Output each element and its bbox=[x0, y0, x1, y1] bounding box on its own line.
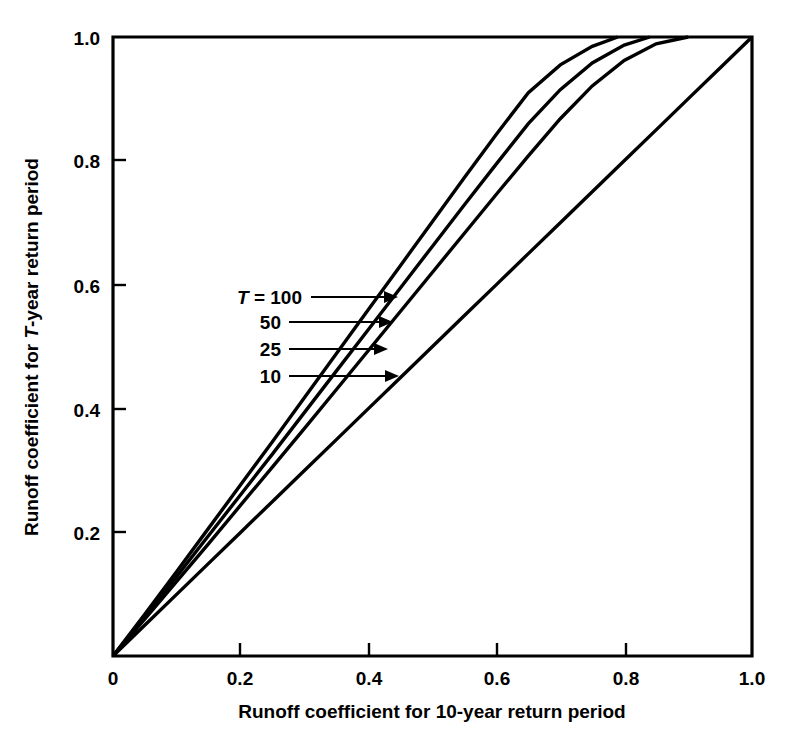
y-tick-label-1.0: 1.0 bbox=[74, 28, 100, 49]
y-axis-ticks bbox=[113, 160, 126, 532]
series-label-t50: 50 bbox=[260, 312, 281, 333]
chart-figure: 1.0 0.8 0.6 0.4 0.2 0 0.2 0.4 0.6 0.8 1.… bbox=[0, 0, 801, 741]
series-label-t100: T = 100 bbox=[237, 287, 302, 308]
arrow-head-t25 bbox=[374, 343, 388, 355]
y-tick-label-0.4: 0.4 bbox=[74, 400, 101, 421]
x-axis-ticks bbox=[240, 643, 626, 656]
x-tick-label-0.2: 0.2 bbox=[227, 668, 253, 689]
y-axis-tick-labels: 1.0 0.8 0.6 0.4 0.2 bbox=[74, 28, 101, 544]
arrow-head-t50 bbox=[379, 316, 393, 328]
curve-t25 bbox=[113, 37, 688, 656]
runoff-coefficient-chart: 1.0 0.8 0.6 0.4 0.2 0 0.2 0.4 0.6 0.8 1.… bbox=[0, 0, 801, 741]
x-axis-tick-labels: 0 0.2 0.4 0.6 0.8 1.0 bbox=[108, 668, 766, 689]
curve-t10 bbox=[113, 37, 752, 656]
series-labels: T = 100 50 25 10 bbox=[237, 287, 302, 387]
y-tick-label-0.6: 0.6 bbox=[74, 276, 100, 297]
y-tick-label-0.8: 0.8 bbox=[74, 151, 100, 172]
y-tick-label-0.2: 0.2 bbox=[74, 523, 100, 544]
series-label-t10: 10 bbox=[260, 366, 281, 387]
leader-t100 bbox=[311, 291, 398, 303]
x-tick-label-0.4: 0.4 bbox=[356, 668, 383, 689]
x-tick-label-0.6: 0.6 bbox=[484, 668, 510, 689]
x-tick-label-0: 0 bbox=[108, 668, 119, 689]
series-label-t100-rest: = 100 bbox=[249, 287, 302, 308]
y-axis-title: Runoff coefficient for T-year return per… bbox=[21, 158, 42, 536]
y-axis-title-before: Runoff coefficient for bbox=[21, 339, 42, 536]
series-label-t25: 25 bbox=[260, 339, 282, 360]
x-axis-title: Runoff coefficient for 10-year return pe… bbox=[238, 701, 625, 722]
x-tick-label-1.0: 1.0 bbox=[739, 668, 765, 689]
annotation-leaders bbox=[289, 291, 399, 382]
data-curves bbox=[113, 37, 752, 656]
y-axis-title-after: -year return period bbox=[21, 158, 42, 327]
x-tick-label-0.8: 0.8 bbox=[613, 668, 639, 689]
